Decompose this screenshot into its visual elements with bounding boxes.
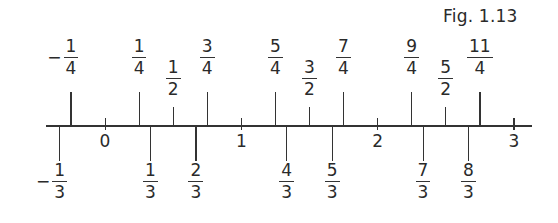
above-fraction-label: 12 xyxy=(166,59,181,98)
numerator: 4 xyxy=(279,162,294,179)
figure-caption: Fig. 1.13 xyxy=(443,6,518,26)
fraction-stack: 74 xyxy=(336,38,351,77)
numerator: 5 xyxy=(325,162,340,179)
quarter-tick xyxy=(343,92,344,125)
third-tick xyxy=(195,125,196,161)
minus-sign: − xyxy=(36,173,50,190)
denominator: 2 xyxy=(438,81,453,98)
above-fraction-label: 74 xyxy=(336,38,351,77)
fraction-stack: 43 xyxy=(279,162,294,201)
above-fraction-label: 114 xyxy=(467,38,493,77)
half-tick xyxy=(309,107,310,125)
denominator: 4 xyxy=(336,60,351,77)
below-fraction-label: 83 xyxy=(461,162,476,201)
denominator: 4 xyxy=(404,60,419,77)
denominator: 4 xyxy=(132,60,147,77)
fraction-stack: 54 xyxy=(268,38,283,77)
third-tick xyxy=(59,125,60,161)
numerator: 1 xyxy=(166,59,181,76)
above-fraction-label: 32 xyxy=(302,59,317,98)
quarter-tick xyxy=(207,92,208,125)
denominator: 4 xyxy=(268,60,283,77)
fraction-stack: 53 xyxy=(325,162,340,201)
below-fraction-label: 43 xyxy=(279,162,294,201)
below-fraction-label: 73 xyxy=(416,162,431,201)
minus-sign: − xyxy=(47,49,61,66)
number-line-axis xyxy=(46,125,532,127)
above-fraction-label: 94 xyxy=(404,38,419,77)
quarter-tick xyxy=(479,92,480,125)
fraction-stack: 94 xyxy=(404,38,419,77)
fraction-stack: 114 xyxy=(467,38,493,77)
number-line-figure: Fig. 1.13 0123−141412345432749452114−131… xyxy=(0,0,558,223)
half-tick xyxy=(445,107,446,125)
denominator: 3 xyxy=(52,184,67,201)
denominator: 4 xyxy=(64,60,79,77)
denominator: 3 xyxy=(143,184,158,201)
third-tick xyxy=(423,125,424,161)
numerator: 1 xyxy=(52,162,67,179)
above-fraction-label: 54 xyxy=(268,38,283,77)
fraction-stack: 13 xyxy=(143,162,158,201)
integer-tick xyxy=(241,118,242,130)
below-fraction-label: −13 xyxy=(36,162,67,201)
numerator: 1 xyxy=(132,38,147,55)
denominator: 3 xyxy=(325,184,340,201)
fraction-stack: 52 xyxy=(438,59,453,98)
third-tick xyxy=(150,125,151,161)
numerator: 5 xyxy=(438,59,453,76)
fraction-stack: 14 xyxy=(132,38,147,77)
denominator: 3 xyxy=(279,184,294,201)
numerator: 1 xyxy=(143,162,158,179)
third-tick xyxy=(332,125,333,161)
fraction-stack: 13 xyxy=(52,162,67,201)
fraction-stack: 83 xyxy=(461,162,476,201)
quarter-tick xyxy=(275,92,276,125)
third-tick xyxy=(286,125,287,161)
fraction-stack: 14 xyxy=(64,38,79,77)
denominator: 3 xyxy=(461,184,476,201)
fraction-stack: 23 xyxy=(188,162,203,201)
numerator: 7 xyxy=(336,38,351,55)
below-fraction-label: 53 xyxy=(325,162,340,201)
quarter-tick xyxy=(411,92,412,125)
above-fraction-label: −14 xyxy=(47,38,78,77)
integer-label: 3 xyxy=(508,133,519,150)
integer-label: 0 xyxy=(100,133,111,150)
denominator: 2 xyxy=(302,81,317,98)
denominator: 3 xyxy=(416,184,431,201)
numerator: 9 xyxy=(404,38,419,55)
integer-tick xyxy=(513,118,514,130)
half-tick xyxy=(173,107,174,125)
numerator: 1 xyxy=(64,38,79,55)
numerator: 2 xyxy=(188,162,203,179)
fraction-stack: 32 xyxy=(302,59,317,98)
integer-tick xyxy=(105,118,106,130)
quarter-tick xyxy=(139,92,140,125)
quarter-tick xyxy=(70,92,71,125)
fraction-stack: 12 xyxy=(166,59,181,98)
numerator: 3 xyxy=(200,38,215,55)
denominator: 4 xyxy=(472,60,487,77)
above-fraction-label: 34 xyxy=(200,38,215,77)
numerator: 7 xyxy=(416,162,431,179)
numerator: 11 xyxy=(467,38,493,55)
above-fraction-label: 14 xyxy=(132,38,147,77)
denominator: 4 xyxy=(200,60,215,77)
numerator: 3 xyxy=(302,59,317,76)
denominator: 3 xyxy=(188,184,203,201)
numerator: 8 xyxy=(461,162,476,179)
fraction-stack: 73 xyxy=(416,162,431,201)
integer-label: 1 xyxy=(236,133,247,150)
denominator: 2 xyxy=(166,81,181,98)
integer-tick xyxy=(377,118,378,130)
integer-label: 2 xyxy=(372,133,383,150)
below-fraction-label: 13 xyxy=(143,162,158,201)
numerator: 5 xyxy=(268,38,283,55)
below-fraction-label: 23 xyxy=(188,162,203,201)
fraction-stack: 34 xyxy=(200,38,215,77)
above-fraction-label: 52 xyxy=(438,59,453,98)
third-tick xyxy=(468,125,469,161)
